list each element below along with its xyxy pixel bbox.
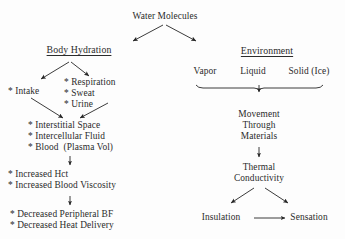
node-intake: * Intake bbox=[8, 86, 39, 97]
arrow-water-to-environment bbox=[166, 25, 196, 41]
brace-phases bbox=[196, 85, 323, 91]
arrow-intake-to-compartments bbox=[31, 98, 63, 118]
node-sensation: Sensation bbox=[290, 212, 327, 223]
water-molecules-diagram: Water Molecules Body Hydration * Intake … bbox=[0, 0, 345, 239]
node-blood-changes: * Increased Hct * Increased Blood Viscos… bbox=[8, 169, 116, 191]
node-phase-vapor: Vapor bbox=[194, 66, 217, 77]
arrow-thermal-to-sensation bbox=[265, 188, 288, 203]
heading-environment: Environment bbox=[241, 46, 293, 57]
node-thermal-conductivity: Thermal Conductivity bbox=[234, 162, 284, 184]
node-water-losses: * Respiration * Sweat * Urine bbox=[64, 77, 116, 109]
node-thermal-outcomes: * Decreased Peripheral BF * Decreased He… bbox=[10, 209, 114, 231]
node-movement-through-materials: Movement Through Materials bbox=[238, 109, 279, 141]
node-fluid-compartments: * Interstitial Space * Intercellular Flu… bbox=[28, 120, 113, 152]
node-phase-liquid: Liquid bbox=[240, 66, 266, 77]
node-phase-solid-ice: Solid (Ice) bbox=[289, 66, 330, 77]
arrow-thermal-to-insulation bbox=[231, 188, 254, 203]
node-insulation: Insulation bbox=[202, 212, 241, 223]
diagram-title: Water Molecules bbox=[132, 11, 197, 22]
heading-body-hydration: Body Hydration bbox=[47, 45, 112, 56]
arrow-water-to-body bbox=[133, 25, 163, 41]
arrow-hydration-to-losses bbox=[71, 62, 89, 76]
